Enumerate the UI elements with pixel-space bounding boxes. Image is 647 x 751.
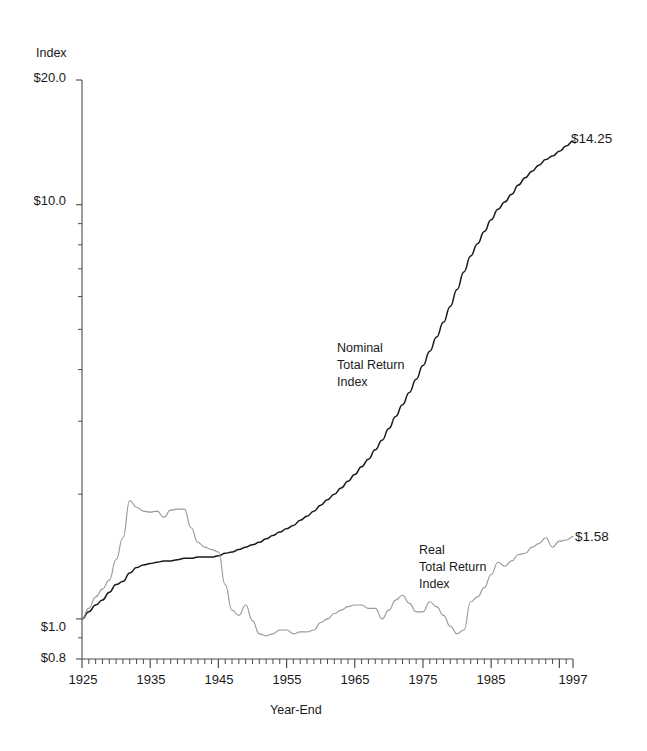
nominal-series-annotation: Nominal Total Return Index — [337, 340, 404, 390]
y-axis-caption: Index — [36, 46, 67, 61]
total-return-index-chart — [0, 0, 647, 751]
y-tick-label-20: $20.0 — [4, 70, 66, 85]
y-axis-ticks — [76, 80, 82, 659]
y-tick-label-0-8: $0.8 — [4, 650, 66, 665]
nominal-endpoint-label: $14.25 — [571, 131, 612, 147]
x-tick-label-1975: 1975 — [402, 672, 444, 687]
x-tick-label-1955: 1955 — [266, 672, 308, 687]
data-series-lines — [82, 141, 573, 636]
x-tick-label-1925: 1925 — [62, 672, 104, 687]
chart-figure: Index $20.0 $10.0 $1.0 $0.8 1925 1935 19… — [0, 0, 647, 751]
x-tick-label-1945: 1945 — [198, 672, 240, 687]
axis-lines — [82, 80, 573, 659]
y-tick-label-10: $10.0 — [4, 193, 66, 208]
x-tick-label-1997: 1997 — [552, 672, 594, 687]
real-total-return-line — [82, 501, 573, 636]
x-axis-title: Year-End — [270, 703, 322, 718]
real-series-annotation: Real Total Return Index — [419, 542, 486, 592]
x-tick-label-1965: 1965 — [334, 672, 376, 687]
y-tick-label-1: $1.0 — [4, 619, 66, 634]
x-axis-ticks — [82, 659, 573, 668]
x-tick-label-1935: 1935 — [130, 672, 172, 687]
real-endpoint-label: $1.58 — [575, 529, 609, 545]
nominal-total-return-line — [82, 141, 573, 619]
x-tick-label-1985: 1985 — [470, 672, 512, 687]
